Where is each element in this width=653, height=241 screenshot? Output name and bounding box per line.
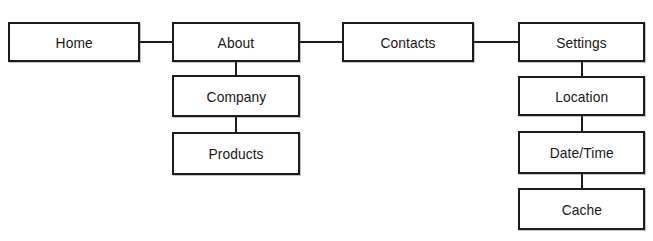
node-label-location: Location bbox=[555, 88, 608, 105]
site-map-diagram: Home About Company Products Contacts Set… bbox=[0, 0, 653, 241]
node-contacts[interactable]: Contacts bbox=[342, 22, 474, 62]
connector-home-about bbox=[140, 41, 172, 43]
node-cache[interactable]: Cache bbox=[518, 188, 645, 230]
node-label-contacts: Contacts bbox=[380, 34, 435, 51]
node-label-home: Home bbox=[55, 34, 92, 51]
node-label-company: Company bbox=[206, 88, 266, 105]
connector-company-products bbox=[235, 117, 237, 132]
connector-datetime-cache bbox=[581, 174, 583, 188]
connector-about-contacts bbox=[300, 41, 342, 43]
node-about[interactable]: About bbox=[172, 22, 300, 62]
connector-contacts-settings bbox=[474, 41, 518, 43]
node-location[interactable]: Location bbox=[518, 76, 645, 116]
node-home[interactable]: Home bbox=[8, 22, 140, 62]
node-datetime[interactable]: Date/Time bbox=[518, 131, 645, 174]
connector-location-datetime bbox=[581, 116, 583, 131]
node-label-settings: Settings bbox=[556, 34, 607, 51]
node-products[interactable]: Products bbox=[172, 132, 300, 175]
connector-about-company bbox=[235, 62, 237, 75]
connector-settings-location bbox=[581, 62, 583, 76]
node-company[interactable]: Company bbox=[172, 75, 300, 117]
node-label-products: Products bbox=[208, 145, 263, 162]
node-settings[interactable]: Settings bbox=[518, 22, 645, 62]
node-label-about: About bbox=[218, 34, 255, 51]
node-label-cache: Cache bbox=[561, 201, 601, 218]
node-label-datetime: Date/Time bbox=[550, 144, 614, 161]
